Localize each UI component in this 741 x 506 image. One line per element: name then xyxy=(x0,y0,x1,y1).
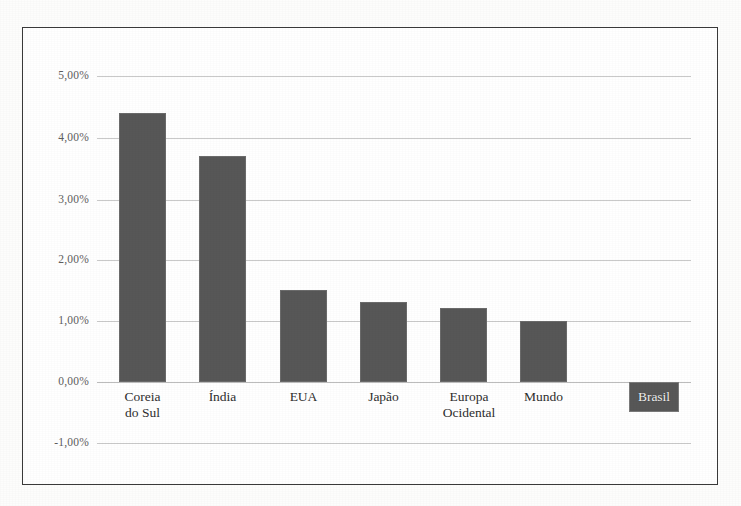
bar-coreia-do-sul xyxy=(119,113,166,382)
ytick-label-2: 2,00% xyxy=(23,254,89,266)
gridline-2 xyxy=(97,260,691,261)
chart-frame: 5,00% 4,00% 3,00% 2,00% 1,00% 0,00% -1,0… xyxy=(22,27,718,485)
bar-mundo xyxy=(520,321,567,382)
xtick-label-brasil: Brasil xyxy=(629,389,679,405)
gridline-zero xyxy=(97,382,691,383)
bar-europa-ocidental xyxy=(440,308,487,382)
gridline-4 xyxy=(97,138,691,139)
gridline-minus-1 xyxy=(97,443,691,444)
ytick-label-1: 1,00% xyxy=(23,315,89,327)
bar-japao xyxy=(360,302,407,382)
figure: 5,00% 4,00% 3,00% 2,00% 1,00% 0,00% -1,0… xyxy=(0,0,741,506)
ytick-label-0: 0,00% xyxy=(23,376,89,388)
bar-india xyxy=(199,156,246,382)
bar-eua xyxy=(280,290,327,382)
xtick-label-coreia-do-sul: Coreia do Sul xyxy=(102,389,183,422)
plot-area: 5,00% 4,00% 3,00% 2,00% 1,00% 0,00% -1,0… xyxy=(23,28,717,484)
gridline-3 xyxy=(97,200,691,201)
ytick-label-5: 5,00% xyxy=(23,70,89,82)
xtick-label-mundo: Mundo xyxy=(503,389,584,405)
ytick-label-3: 3,00% xyxy=(23,194,89,206)
xtick-label-eua: EUA xyxy=(263,389,344,405)
gridline-5 xyxy=(97,76,691,77)
ytick-label-minus-1: -1,00% xyxy=(23,437,89,449)
xtick-label-india: Índia xyxy=(182,389,263,405)
ytick-label-4: 4,00% xyxy=(23,132,89,144)
xtick-label-japao: Japão xyxy=(343,389,424,405)
